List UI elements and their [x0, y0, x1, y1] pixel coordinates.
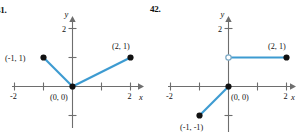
point-label-0-0-42: (0, 0) — [231, 93, 249, 102]
point-2-1-42 — [283, 54, 289, 60]
x-tick-label-minus2-42: -2 — [166, 92, 173, 101]
point-2-1-41 — [127, 54, 133, 60]
graph-42-svg: -2 2 2 x y (2, 1) (0, 0) (-1, -1) — [150, 0, 301, 138]
point-label-minus1-1-41: (-1, 1) — [5, 54, 26, 63]
x-tick-label-2-42: 2 — [284, 92, 288, 101]
y-axis-42 — [225, 16, 231, 132]
figure-42: 42. — [150, 0, 300, 138]
open-point-0-1-42 — [226, 55, 231, 60]
segment-right-branch-41 — [73, 58, 131, 87]
x-axis-42 — [168, 83, 296, 89]
y-axis-label-42: y — [220, 9, 225, 19]
point-label-0-0-41: (0, 0) — [50, 93, 68, 102]
point-minus1-minus1-42 — [196, 112, 202, 118]
point-label-minus1-minus1-42: (-1, -1) — [180, 123, 203, 132]
point-label-2-1-41: (2, 1) — [112, 42, 130, 51]
y-axis-label-41: y — [64, 9, 69, 19]
segment-lower-branch-42 — [200, 87, 229, 116]
point-0-0-41 — [69, 83, 75, 89]
x-axis-label-41: x — [138, 92, 143, 102]
point-minus1-1-41 — [40, 54, 46, 60]
x-tick-label-minus2-41: -2 — [10, 92, 17, 101]
point-label-2-1-42: (2, 1) — [268, 42, 286, 51]
figure-page: 41. — [0, 0, 301, 138]
y-tick-label-2-42: 2 — [218, 25, 222, 34]
graph-41-svg: -2 2 2 x y (-1, 1) (2, 1) (0, 0) — [0, 0, 150, 138]
x-tick-label-2-41: 2 — [128, 92, 132, 101]
segment-left-branch-41 — [44, 58, 73, 87]
y-tick-label-2-41: 2 — [62, 25, 66, 34]
point-0-0-42 — [225, 83, 231, 89]
x-axis-label-42: x — [290, 92, 295, 102]
y-axis-41 — [69, 16, 75, 128]
figure-41: 41. — [0, 0, 150, 138]
